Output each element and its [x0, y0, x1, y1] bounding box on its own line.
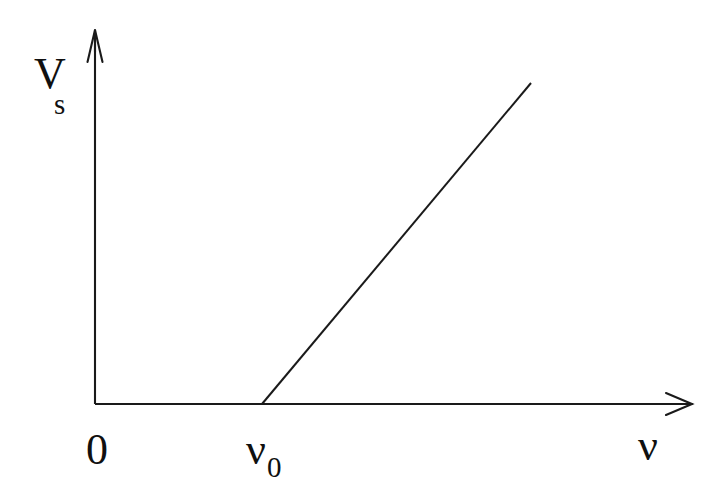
x-axis-label-text: ν [638, 421, 658, 470]
threshold-label-subscript: 0 [267, 453, 282, 482]
graph-svg [0, 0, 727, 489]
figure-canvas: V s 0 ν0 ν [0, 0, 727, 489]
threshold-frequency-label: ν0 [246, 428, 280, 472]
data-line-stopping-potential [262, 83, 531, 404]
origin-label-text: 0 [86, 425, 108, 474]
y-axis-label-subscript: s [54, 90, 66, 119]
y-axis-label: V s [34, 52, 66, 119]
x-axis-label: ν [638, 424, 658, 468]
threshold-label-base: ν [246, 425, 266, 474]
origin-label: 0 [86, 428, 108, 472]
